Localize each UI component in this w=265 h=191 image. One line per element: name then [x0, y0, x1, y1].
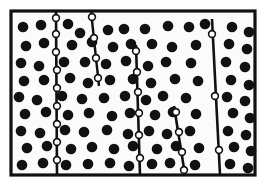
matrix-precipitate: [59, 57, 70, 68]
matrix-precipitate: [123, 129, 134, 140]
grain-boundary-precipitate: [181, 167, 188, 174]
matrix-precipitate: [161, 57, 172, 68]
matrix-precipitate: [80, 57, 91, 68]
matrix-precipitate: [191, 40, 202, 51]
matrix-precipitate: [119, 24, 130, 35]
matrix-precipitate: [65, 73, 76, 84]
matrix-precipitate: [105, 158, 116, 169]
matrix-precipitate: [158, 91, 169, 102]
grain-boundary-precipitate: [135, 89, 142, 96]
matrix-precipitate: [150, 110, 161, 121]
matrix-precipitate: [19, 76, 30, 87]
grain-boundary-precipitate: [54, 121, 61, 128]
matrix-precipitate: [141, 95, 152, 106]
matrix-precipitate: [221, 57, 232, 68]
matrix-precipitate: [140, 24, 151, 35]
matrix-precipitate: [61, 160, 72, 171]
matrix-precipitate: [147, 39, 158, 50]
matrix-precipitate: [224, 39, 235, 50]
matrix-precipitate: [102, 125, 113, 136]
matrix-precipitate: [190, 160, 201, 171]
grain-boundary-precipitate: [54, 139, 61, 146]
matrix-precipitate: [75, 28, 86, 39]
matrix-precipitate: [244, 27, 255, 38]
grain-boundary-precipitate: [54, 103, 61, 110]
matrix-precipitate: [105, 75, 116, 86]
matrix-precipitate: [186, 58, 197, 69]
matrix-precipitate: [107, 111, 118, 122]
matrix-precipitate: [227, 22, 238, 33]
matrix-precipitate: [162, 129, 173, 140]
matrix-precipitate: [14, 92, 25, 103]
matrix-precipitate: [83, 159, 94, 170]
matrix-precipitate: [184, 22, 195, 33]
matrix-precipitate: [147, 159, 158, 170]
matrix-precipitate: [246, 146, 257, 157]
matrix-precipitate: [99, 93, 110, 104]
matrix-precipitate: [42, 141, 53, 152]
matrix-precipitate: [229, 142, 240, 153]
grain-boundary-precipitate: [53, 31, 60, 38]
matrix-precipitate: [35, 128, 46, 139]
grain-boundary-precipitate: [53, 15, 60, 22]
grain-boundary-precipitate: [91, 35, 98, 42]
matrix-precipitate: [39, 38, 50, 49]
matrix-precipitate: [144, 126, 155, 137]
matrix-precipitate: [242, 44, 253, 55]
matrix-precipitate: [222, 92, 233, 103]
grain-boundary-precipitate: [216, 147, 223, 154]
matrix-precipitate: [87, 142, 98, 153]
matrix-precipitate: [165, 158, 176, 169]
matrix-precipitate: [124, 161, 135, 172]
matrix-precipitate: [146, 78, 157, 89]
matrix-precipitate: [125, 108, 136, 119]
grain-boundary-precipitate: [54, 67, 61, 74]
matrix-precipitate: [185, 126, 196, 137]
matrix-precipitate: [121, 56, 132, 67]
matrix-precipitate: [240, 96, 251, 107]
matrix-precipitate: [16, 126, 27, 137]
matrix-precipitate: [191, 109, 202, 120]
grain-boundary-precipitate: [179, 149, 186, 156]
matrix-precipitate: [170, 74, 181, 85]
matrix-precipitate: [18, 22, 29, 33]
matrix-precipitate: [77, 94, 88, 105]
grain-boundary-precipitate: [173, 109, 180, 116]
matrix-precipitate: [57, 91, 68, 102]
matrix-precipitate: [83, 78, 94, 89]
matrix-precipitate: [38, 158, 49, 169]
matrix-precipitate: [181, 93, 192, 104]
matrix-precipitate: [36, 20, 47, 31]
grain-boundary-precipitate: [54, 157, 61, 164]
matrix-precipitate: [245, 113, 256, 124]
microstructure-figure: [0, 0, 265, 191]
grain-boundary-precipitate: [212, 93, 219, 100]
matrix-precipitate: [39, 75, 50, 86]
matrix-precipitate: [66, 144, 77, 155]
microstructure-canvas: [0, 0, 265, 191]
grain-boundary-precipitate: [93, 55, 100, 62]
matrix-precipitate: [128, 141, 139, 152]
grain-boundary-precipitate: [136, 110, 143, 117]
grain-boundary-precipitate: [209, 31, 216, 38]
matrix-precipitate: [226, 75, 237, 86]
matrix-precipitate: [244, 80, 255, 91]
matrix-precipitate: [152, 144, 163, 155]
grain-boundary-precipitate: [89, 14, 96, 21]
matrix-precipitate: [63, 110, 74, 121]
grain-boundary-precipitate: [137, 155, 144, 162]
matrix-precipitate: [84, 108, 95, 119]
matrix-precipitate: [243, 163, 254, 174]
matrix-precipitate: [34, 61, 45, 72]
grain-boundary-precipitate: [95, 75, 102, 82]
matrix-precipitate: [240, 62, 251, 73]
matrix-precipitate: [16, 58, 27, 69]
grain-boundary-precipitate: [54, 85, 61, 92]
matrix-precipitate: [17, 160, 28, 171]
matrix-precipitate: [167, 42, 178, 53]
matrix-precipitate: [20, 109, 31, 120]
matrix-precipitate: [163, 21, 174, 32]
matrix-precipitate: [109, 144, 120, 155]
matrix-precipitate: [103, 25, 114, 36]
grain-boundary-precipitate: [176, 129, 183, 136]
